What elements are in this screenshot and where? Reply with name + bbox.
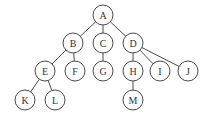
nodes: ABCDEFGHIJKLM bbox=[15, 5, 198, 110]
node-g: G bbox=[93, 61, 113, 81]
node-a: A bbox=[93, 5, 113, 25]
node-j: J bbox=[178, 61, 198, 81]
edge-a-b bbox=[80, 22, 95, 36]
node-label: D bbox=[129, 38, 136, 49]
edge-e-k bbox=[31, 79, 40, 92]
node-i: I bbox=[150, 61, 170, 81]
node-h: H bbox=[123, 61, 143, 81]
node-k: K bbox=[15, 90, 35, 110]
node-label: A bbox=[99, 10, 107, 21]
node-label: B bbox=[70, 38, 77, 49]
tree-diagram: ABCDEFGHIJKLM bbox=[0, 0, 214, 119]
node-m: M bbox=[123, 90, 143, 110]
node-label: K bbox=[21, 95, 29, 106]
node-label: H bbox=[129, 66, 136, 77]
node-label: I bbox=[158, 66, 161, 77]
node-label: G bbox=[99, 66, 106, 77]
node-e: E bbox=[35, 61, 55, 81]
node-label: C bbox=[100, 38, 107, 49]
node-label: M bbox=[129, 95, 138, 106]
node-label: L bbox=[52, 95, 58, 106]
node-b: B bbox=[63, 33, 83, 53]
edge-b-f bbox=[74, 53, 75, 61]
node-d: D bbox=[123, 33, 143, 53]
edge-a-d bbox=[110, 22, 125, 36]
edge-b-e bbox=[52, 50, 66, 64]
node-c: C bbox=[93, 33, 113, 53]
node-f: F bbox=[65, 61, 85, 81]
edge-e-l bbox=[48, 80, 51, 90]
node-label: F bbox=[72, 66, 78, 77]
node-l: L bbox=[45, 90, 65, 110]
node-label: J bbox=[186, 66, 190, 77]
node-label: E bbox=[42, 66, 48, 77]
